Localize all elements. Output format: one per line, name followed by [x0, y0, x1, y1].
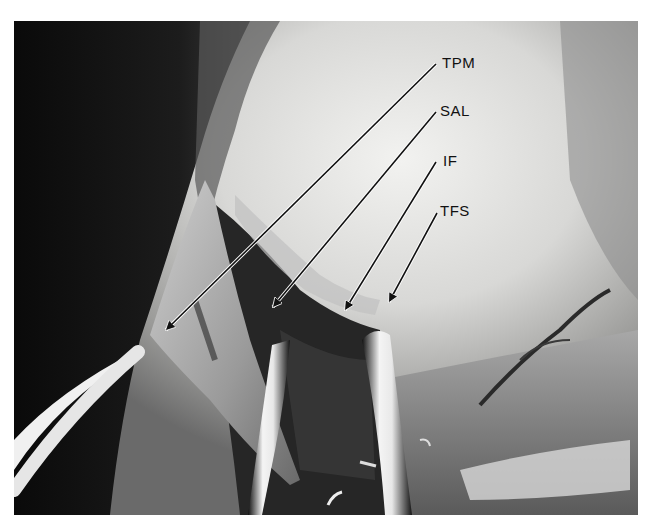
arrow-if: [345, 162, 436, 310]
annotation-arrows: [0, 0, 650, 526]
label-tfs: TFS: [440, 203, 470, 218]
arrow-sal: [273, 112, 436, 307]
label-sal: SAL: [440, 103, 470, 118]
label-tpm: TPM: [442, 55, 475, 70]
label-if: IF: [443, 153, 457, 168]
